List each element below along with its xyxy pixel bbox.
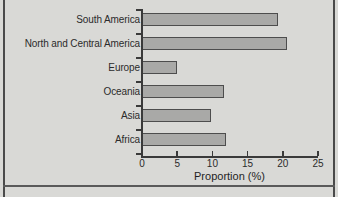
y-axis-tick (136, 81, 141, 83)
x-axis-tick (176, 151, 178, 156)
y-axis-tick (136, 153, 141, 155)
x-axis-title: Proportion (%) (141, 170, 318, 182)
x-axis-line (141, 156, 318, 158)
chart-page: South America North and Central America … (0, 0, 338, 197)
x-axis-tick (141, 151, 143, 156)
category-label-europe: Europe (108, 62, 140, 73)
bar-asia (142, 109, 211, 122)
x-axis-tick (247, 151, 249, 156)
y-axis-tick (136, 9, 141, 11)
x-axis-tick (317, 151, 319, 156)
x-axis-tick-label: 25 (312, 158, 323, 169)
x-axis-tick-label: 5 (174, 158, 180, 169)
bar-north-and-central-america (142, 37, 287, 50)
bar-oceania (142, 85, 224, 98)
x-axis-tick (282, 151, 284, 156)
x-axis-tick-label: 20 (277, 158, 288, 169)
x-axis-tick-label: 10 (207, 158, 218, 169)
category-label-south-america: South America (76, 14, 140, 25)
bar-africa (142, 133, 226, 146)
y-axis-line (141, 9, 143, 157)
bar-south-america (142, 13, 278, 26)
y-axis-tick (136, 57, 141, 59)
bar-chart-plot: South America North and Central America … (0, 0, 338, 197)
x-axis-tick (212, 151, 214, 156)
x-axis-tick-label: 15 (242, 158, 253, 169)
category-label-north-and-central-america: North and Central America (25, 38, 140, 49)
y-axis-tick (136, 105, 141, 107)
bar-europe (142, 61, 177, 74)
category-label-oceania: Oceania (103, 86, 140, 97)
y-axis-tick (136, 33, 141, 35)
category-label-africa: Africa (115, 134, 140, 145)
category-label-asia: Asia (121, 110, 140, 121)
x-axis-tick-label: 0 (139, 158, 145, 169)
y-axis-tick (136, 129, 141, 131)
